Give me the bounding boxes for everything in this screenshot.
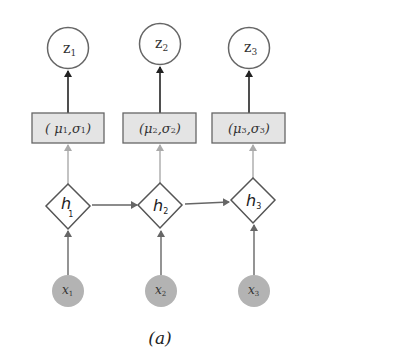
edges-hidden-to-box <box>68 145 253 184</box>
node-label: z <box>63 40 70 56</box>
node-label: z <box>244 39 251 55</box>
paren-close: ) <box>175 121 181 136</box>
node-subscript: 1 <box>70 48 76 58</box>
mu-symbol: μ <box>233 121 241 136</box>
node-subscript: 1 <box>69 290 73 298</box>
node-subscript: 2 <box>163 207 168 216</box>
paren-open: ( <box>45 121 54 136</box>
edges-observed-to-hidden <box>68 225 254 275</box>
paren-close: ) <box>264 121 270 136</box>
node-subscript: 2 <box>162 290 166 298</box>
observed-node-x3: x3 <box>238 275 270 307</box>
node-label: z <box>155 35 162 51</box>
latent-node-z3: z3 <box>229 28 270 69</box>
node-subscript: 1 <box>68 210 73 219</box>
node-subscript: 3 <box>255 290 259 298</box>
figure-caption: (a) <box>148 328 171 348</box>
param-box-2: (μ2,σ2) <box>123 113 196 143</box>
node-label: h <box>246 191 256 210</box>
node-label: h <box>153 196 163 215</box>
edges-box-to-latent <box>68 67 249 113</box>
mu-symbol: μ <box>54 121 62 136</box>
observed-node-x1: x1 <box>52 275 84 307</box>
latent-node-z2: z2 <box>140 24 181 65</box>
node-subscript: 3 <box>251 47 257 57</box>
hidden-node-h1: h1 <box>46 184 90 229</box>
hidden-node-h3: h3 <box>231 178 275 223</box>
node-subscript: 2 <box>162 43 168 53</box>
observed-node-x2: x2 <box>145 275 177 307</box>
paren-close: ) <box>85 121 91 136</box>
node-subscript: 3 <box>256 202 261 211</box>
rnn-vae-diagram: z1 z2 z3 ( μ1,σ1) (μ2,σ2) (μ3,σ3) h1 h2 … <box>0 0 418 359</box>
param-box-3: (μ3,σ3) <box>212 113 285 143</box>
latent-node-z1: z1 <box>48 28 89 69</box>
edge-h2-h3 <box>185 202 229 204</box>
hidden-node-h2: h2 <box>138 183 182 228</box>
param-box-1: ( μ1,σ1) <box>32 113 104 143</box>
mu-symbol: μ <box>144 121 152 136</box>
